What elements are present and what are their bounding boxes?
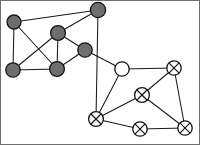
graph-node-x5[interactable] bbox=[178, 121, 192, 135]
graph-node-x4[interactable] bbox=[133, 122, 147, 136]
graph-node-g6[interactable] bbox=[50, 62, 65, 77]
graph-edge bbox=[96, 69, 122, 119]
graph-figure bbox=[0, 0, 200, 145]
graph-edge bbox=[14, 10, 98, 22]
node-disc bbox=[6, 63, 20, 77]
graph-edge bbox=[14, 22, 57, 69]
graph-node-x1[interactable] bbox=[167, 61, 181, 75]
graph-node-w1[interactable] bbox=[115, 62, 129, 76]
graph-node-g5[interactable] bbox=[6, 63, 20, 77]
node-disc bbox=[51, 26, 66, 41]
graph-node-x2[interactable] bbox=[135, 88, 150, 103]
node-disc bbox=[78, 43, 92, 57]
graph-node-g2[interactable] bbox=[90, 2, 105, 17]
graph-node-x3[interactable] bbox=[89, 112, 104, 127]
edge-layer bbox=[13, 10, 185, 129]
graph-edge bbox=[174, 68, 185, 128]
node-disc bbox=[115, 62, 129, 76]
graph-canvas bbox=[0, 0, 200, 145]
node-disc bbox=[7, 15, 21, 29]
graph-edge bbox=[96, 10, 98, 119]
graph-edge bbox=[142, 95, 185, 128]
graph-node-g1[interactable] bbox=[7, 15, 21, 29]
graph-node-g4[interactable] bbox=[78, 43, 92, 57]
node-disc bbox=[50, 62, 65, 77]
node-disc bbox=[90, 2, 105, 17]
graph-node-g3[interactable] bbox=[51, 26, 66, 41]
